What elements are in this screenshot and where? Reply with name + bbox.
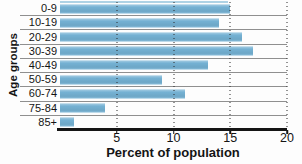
y-tick-label: 0-9	[20, 3, 60, 14]
y-tick-label: 60-74	[20, 88, 60, 99]
y-tick-label: 20-29	[20, 32, 60, 43]
y-tick-label: 85+	[20, 117, 60, 128]
tick-label-10: 10	[167, 131, 181, 145]
bar-50-59	[60, 75, 162, 84]
x-axis-tick-labels: 5101520	[60, 131, 287, 145]
chart-row: 40-49	[20, 59, 287, 73]
chart-row: 30-39	[20, 45, 287, 59]
bar-40-49	[60, 61, 208, 70]
chart-row: 0-9	[20, 2, 287, 16]
bar-20-29	[60, 33, 242, 42]
bar-track	[60, 102, 287, 115]
age-distribution-bar-chart: Age groups 0-910-1920-2930-3940-4950-596…	[0, 0, 302, 164]
tick-label-5: 5	[113, 131, 120, 145]
y-tick-label: 75-84	[20, 103, 60, 114]
chart-row: 60-74	[20, 87, 287, 101]
chart-row: 85+	[20, 116, 287, 129]
chart-rows: 0-910-1920-2930-3940-4950-5960-7475-8485…	[20, 2, 287, 129]
x-axis-title: Percent of population	[106, 145, 240, 160]
tick-label-15: 15	[223, 131, 237, 145]
chart-row: 20-29	[20, 30, 287, 44]
chart-row: 50-59	[20, 73, 287, 87]
bar-track	[60, 73, 287, 86]
bar-0-9	[60, 4, 230, 13]
tick-label-20: 20	[280, 131, 294, 145]
y-tick-label: 30-39	[20, 46, 60, 57]
bar-track	[60, 45, 287, 58]
bar-track	[60, 87, 287, 100]
bar-track	[60, 30, 287, 43]
y-tick-label: 50-59	[20, 74, 60, 85]
bar-60-74	[60, 89, 185, 98]
bar-track	[60, 16, 287, 29]
chart-row: 75-84	[20, 102, 287, 116]
bar-30-39	[60, 47, 253, 56]
y-tick-label: 40-49	[20, 60, 60, 71]
bar-85+	[60, 118, 74, 127]
chart-row: 10-19	[20, 16, 287, 30]
bar-track	[60, 59, 287, 72]
bar-75-84	[60, 104, 105, 113]
y-axis-title: Age groups	[6, 5, 20, 125]
y-tick-label: 10-19	[20, 17, 60, 28]
bar-track	[60, 116, 287, 129]
bar-10-19	[60, 18, 219, 27]
bar-track	[60, 2, 287, 15]
